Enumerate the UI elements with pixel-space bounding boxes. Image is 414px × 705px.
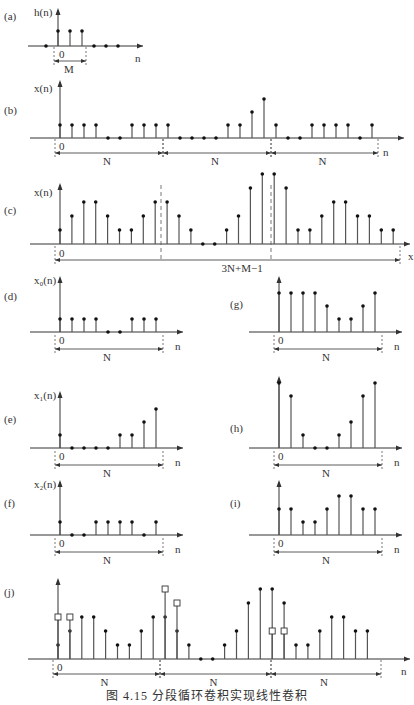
panel-c-xlabel: x xyxy=(408,250,414,262)
panel-i-stem-dot xyxy=(289,507,293,511)
panel-h-stem-dot xyxy=(301,433,305,437)
panel-d-stem-dot xyxy=(154,317,158,321)
panel-b-stem-dot xyxy=(370,123,374,127)
panel-e-span-arrow-icon xyxy=(55,463,60,467)
panel-g-stem-dot xyxy=(289,291,293,295)
panel-j-span-arrow-icon xyxy=(160,672,165,676)
panel-b-stem-dot xyxy=(106,136,110,140)
panel-e-span-arrow-icon xyxy=(158,463,163,467)
panel-c-stem-dot xyxy=(380,228,384,232)
panel-j-stem-dot xyxy=(223,643,227,647)
panel-b-stem-dot xyxy=(322,123,326,127)
panel-j-stem-dot xyxy=(330,615,334,619)
panel-i-stem-dot xyxy=(313,520,317,524)
panel-f-stem-dot xyxy=(58,520,62,524)
panel-h-x-arrow-icon xyxy=(396,446,402,451)
panel-d-span-label: N xyxy=(103,351,111,363)
panel-i-stem-dot xyxy=(337,494,341,498)
panel-e-stem-dot xyxy=(82,446,86,450)
panel-f-stem-dot xyxy=(118,520,122,524)
panel-h-stem-dot xyxy=(373,381,377,385)
panel-j-stem-dot xyxy=(92,615,96,619)
panel-c-stem-dot xyxy=(118,228,122,232)
panel-b-stem-dot xyxy=(286,136,290,140)
panel-b-stem-dot xyxy=(334,123,338,127)
panel-b-origin: 0 xyxy=(59,140,65,152)
panel-j-xlabel: n xyxy=(401,665,407,677)
panel-d-stem-dot xyxy=(82,317,86,321)
panel-a-stem-dot xyxy=(104,44,108,48)
panel-g-stem-dot xyxy=(361,304,365,308)
panel-a-xlabel: n xyxy=(135,52,141,64)
panel-b-span-label: N xyxy=(211,155,219,167)
panel-e-stem-dot xyxy=(142,420,146,424)
panel-d-span-arrow-icon xyxy=(55,347,60,351)
panel-j-stem-dot xyxy=(235,629,239,633)
panel-b-span-label: N xyxy=(319,155,327,167)
panel-g-xlabel: n xyxy=(394,340,400,352)
panel-b-span-arrow-icon xyxy=(266,151,271,155)
panel-b-stem-dot xyxy=(238,123,242,127)
panel-b-span-arrow-icon xyxy=(373,151,378,155)
panel-d-x-arrow-icon xyxy=(177,330,183,335)
panel-j-stem-dot xyxy=(294,643,298,647)
panel-e-xlabel: n xyxy=(175,456,181,468)
panel-h-tag: (h) xyxy=(230,422,243,434)
panel-e-stem-dot xyxy=(106,446,110,450)
panel-j-span-label: N xyxy=(320,676,328,688)
panel-j-x-arrow-icon xyxy=(404,657,410,662)
panel-j-stem-dot xyxy=(270,587,274,591)
panel-a-stem-dot xyxy=(68,29,72,33)
panel-c-stem-dot xyxy=(368,214,372,218)
panel-b-stem-dot xyxy=(298,136,302,140)
panel-d-y-arrow-icon xyxy=(58,276,63,283)
panel-j-stem-dot xyxy=(128,643,132,647)
panel-j-stem-dot xyxy=(187,643,191,647)
panel-h-stem-dot xyxy=(361,394,365,398)
panel-b-stem-dot xyxy=(154,123,158,127)
panel-e-origin: 0 xyxy=(59,450,65,462)
panel-a-stem-dot xyxy=(44,44,48,48)
panel-c-stem-dot xyxy=(261,172,265,176)
panel-g-stem-dot xyxy=(373,291,377,295)
panel-h-origin: 0 xyxy=(278,450,284,462)
panel-b-stem-dot xyxy=(250,110,254,114)
panel-a-tag: (a) xyxy=(4,10,16,22)
panel-j-span-arrow-icon xyxy=(271,672,276,676)
panel-b-ylabel: x(n) xyxy=(34,82,52,94)
panel-j-stem-dot xyxy=(282,601,286,605)
panel-b-stem-dot xyxy=(202,136,206,140)
panel-b-stem-dot xyxy=(58,123,62,127)
panel-i-span-arrow-icon xyxy=(274,550,279,554)
panel-f-stem-dot xyxy=(154,520,158,524)
panel-f-stem-dot xyxy=(70,533,74,537)
panel-b-xlabel: n xyxy=(383,146,389,158)
panel-e-stem-dot xyxy=(118,433,122,437)
panel-a-span-arrow-icon xyxy=(81,59,86,63)
panel-i-y-arrow-icon xyxy=(277,480,282,487)
panel-h-stem-dot xyxy=(277,381,281,385)
panel-a-y-arrow-icon xyxy=(56,8,61,15)
panel-i-span-label: N xyxy=(322,554,330,566)
panel-j-aliased-square-icon xyxy=(174,600,180,606)
panel-c-stem-dot xyxy=(70,214,74,218)
panel-j-stem-dot xyxy=(342,615,346,619)
panel-c-stem-dot xyxy=(356,214,360,218)
panel-c-x-arrow-icon xyxy=(404,242,410,247)
panel-d-stem-dot xyxy=(106,330,110,334)
panel-c-stem-dot xyxy=(320,214,324,218)
panel-j-aliased-square-icon xyxy=(67,614,73,620)
panel-e-stem-dot xyxy=(58,433,62,437)
panel-c-stem-dot xyxy=(201,242,205,246)
panel-a-stem-dot xyxy=(92,44,96,48)
panel-i-stem-dot xyxy=(277,507,281,511)
panel-c-stem-dot xyxy=(82,200,86,204)
panel-j-aliased-square-icon xyxy=(281,628,287,634)
panel-b-span-arrow-icon xyxy=(158,151,163,155)
panel-b-y-arrow-icon xyxy=(58,80,63,87)
panel-c-stem-dot xyxy=(249,186,253,190)
panel-c-y-arrow-icon xyxy=(58,183,63,190)
panel-j-span-label: N xyxy=(101,676,109,688)
panel-b-stem-dot xyxy=(94,123,98,127)
panel-b-stem-dot xyxy=(130,123,134,127)
